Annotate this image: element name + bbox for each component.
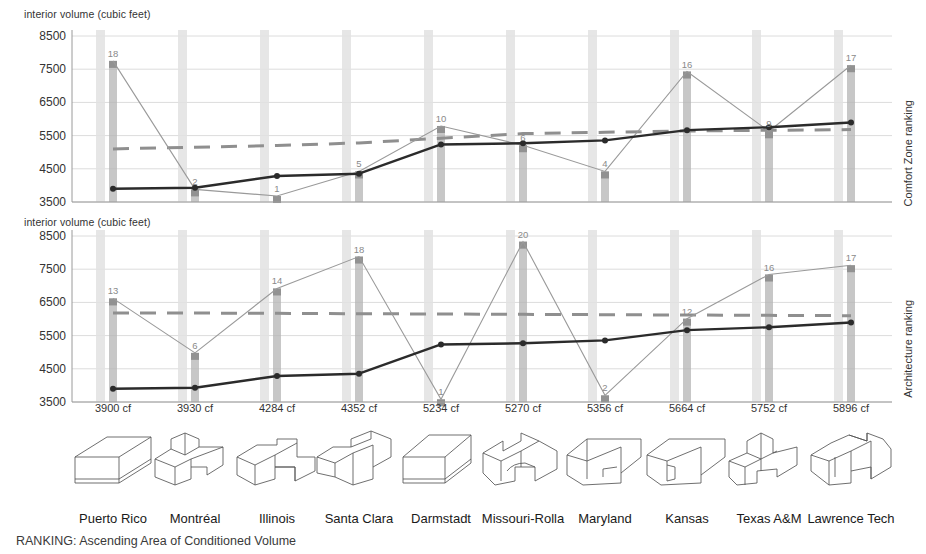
house-sketch — [641, 424, 733, 496]
house-sketch — [559, 424, 651, 496]
rank-point-label: 14 — [272, 275, 283, 286]
rank-point-label: 4 — [602, 158, 607, 169]
house-sketch — [805, 424, 897, 496]
panel2-y-axis-title: interior volume (cubic feet) — [24, 216, 151, 228]
rank-point-label: 5 — [356, 158, 361, 169]
house-sketch — [477, 424, 569, 496]
x-tick-label: 5896 cf — [806, 402, 896, 414]
x-tick-label: 5270 cf — [478, 402, 568, 414]
rank-point-label: 9 — [766, 118, 771, 129]
house-sketch — [149, 424, 241, 496]
house-outline — [317, 431, 391, 485]
house-outline — [811, 433, 891, 485]
y-tick-label: 8500 — [20, 229, 66, 243]
panel1-side-axis-label: Comfort Zone ranking — [902, 100, 926, 112]
house-outline — [403, 435, 471, 483]
rank-point-label: 6 — [520, 132, 525, 143]
house-outline — [75, 437, 151, 483]
y-tick-label: 8500 — [20, 29, 66, 43]
y-tick-label: 3500 — [20, 195, 66, 209]
team-name-label: Lawrence Tech — [796, 511, 906, 526]
panel2-point-labels: 13614181202121617 — [72, 236, 892, 402]
figure-caption: RANKING: Ascending Area of Conditioned V… — [16, 534, 296, 548]
x-tick-label: 3900 cf — [68, 402, 158, 414]
rank-point-label: 6 — [192, 340, 197, 351]
rank-point-label: 17 — [846, 252, 857, 263]
rank-point-label: 17 — [846, 52, 857, 63]
rank-point-label: 18 — [108, 48, 119, 59]
house-sketch — [723, 424, 815, 496]
panel1-y-axis-title: interior volume (cubic feet) — [24, 8, 151, 20]
rank-point-label: 2 — [192, 176, 197, 187]
y-tick-label: 6500 — [20, 295, 66, 309]
house-sketch — [395, 424, 487, 496]
house-outline — [483, 433, 557, 485]
panel1-point-labels: 18215106416917 — [72, 36, 892, 202]
house-sketch-row — [0, 424, 926, 506]
rank-point-label: 16 — [764, 262, 775, 273]
x-tick-label: 4352 cf — [314, 402, 404, 414]
team-name-labels: Puerto RicoMontréalIllinoisSanta ClaraDa… — [0, 511, 926, 531]
y-tick-label: 5500 — [20, 129, 66, 143]
rank-point-label: 10 — [436, 113, 447, 124]
x-tick-label: 5752 cf — [724, 402, 814, 414]
rank-point-label: 20 — [518, 229, 529, 240]
x-tick-label: 4284 cf — [232, 402, 322, 414]
y-tick-label: 4500 — [20, 162, 66, 176]
x-tick-label: 5356 cf — [560, 402, 650, 414]
y-tick-label: 7500 — [20, 62, 66, 76]
house-sketch — [231, 424, 323, 496]
panel2-side-axis-label: Architecture ranking — [902, 300, 926, 312]
house-outline — [155, 433, 223, 485]
house-sketch — [313, 424, 405, 496]
rank-point-label: 2 — [602, 382, 607, 393]
y-tick-label: 7500 — [20, 262, 66, 276]
rank-point-label: 18 — [354, 244, 365, 255]
x-tick-label: 5664 cf — [642, 402, 732, 414]
y-tick-label: 4500 — [20, 362, 66, 376]
rank-point-label: 1 — [274, 183, 279, 194]
rank-point-label: 1 — [438, 386, 443, 397]
y-tick-label: 5500 — [20, 329, 66, 343]
house-outline — [237, 439, 315, 485]
rank-point-label: 12 — [682, 306, 693, 317]
house-sketch — [67, 424, 159, 496]
rank-point-label: 13 — [108, 285, 119, 296]
x-axis-tick-labels: 3900 cf3930 cf4284 cf4352 cf5234 cf5270 … — [0, 402, 926, 418]
house-outline — [647, 439, 725, 485]
y-tick-label: 6500 — [20, 95, 66, 109]
x-tick-label: 5234 cf — [396, 402, 486, 414]
x-tick-label: 3930 cf — [150, 402, 240, 414]
house-outline — [567, 439, 641, 485]
rank-point-label: 16 — [682, 59, 693, 70]
house-outline — [729, 433, 797, 485]
figure-canvas: interior volume (cubic feet) 85007500650… — [0, 0, 926, 554]
